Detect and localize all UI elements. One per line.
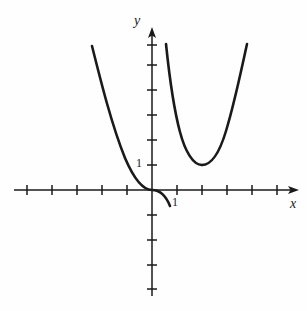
parabola-figure: y x 1 1	[0, 0, 307, 311]
plot-canvas	[0, 0, 307, 311]
curves-group	[92, 44, 247, 206]
axes-group	[14, 27, 299, 296]
curve-wide-parabola	[92, 46, 170, 206]
x-axis-label: x	[290, 197, 296, 211]
y-axis-tick-label-1: 1	[136, 157, 142, 169]
curve-shifted-parabola-right	[202, 44, 247, 165]
y-axis-label: y	[134, 14, 140, 28]
x-axis-tick-label-1: 1	[172, 196, 178, 208]
curve-narrow-parabola-left	[166, 44, 202, 165]
